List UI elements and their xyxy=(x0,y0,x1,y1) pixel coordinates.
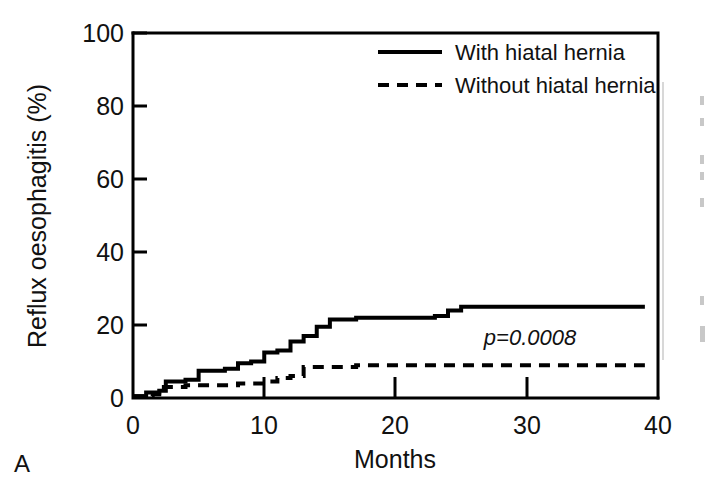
x-tick-label-0: 0 xyxy=(126,411,140,439)
reflux-oesophagitis-step-chart: 100 80 60 40 20 0 0 10 20 30 40 Months R… xyxy=(0,0,708,503)
figure-panel-a: 100 80 60 40 20 0 0 10 20 30 40 Months R… xyxy=(0,0,708,503)
y-tick-label-100: 100 xyxy=(82,19,124,47)
x-tick-label-40: 40 xyxy=(644,411,672,439)
y-axis-ticks xyxy=(133,33,147,325)
x-tick-label-30: 30 xyxy=(513,411,541,439)
x-tick-labels: 0 10 20 30 40 xyxy=(126,411,672,439)
legend-label-without-hiatal-hernia: Without hiatal hernia xyxy=(455,73,656,98)
panel-label: A xyxy=(14,450,30,477)
y-tick-label-80: 80 xyxy=(96,92,124,120)
chart-legend: With hiatal hernia Without hiatal hernia xyxy=(378,40,656,98)
curve-with-hiatal-hernia xyxy=(133,307,645,396)
x-tick-label-20: 20 xyxy=(381,411,409,439)
legend-label-with-hiatal-hernia: With hiatal hernia xyxy=(455,40,626,65)
y-tick-label-40: 40 xyxy=(96,238,124,266)
scan-edge-artifacts xyxy=(662,82,705,360)
x-axis-ticks xyxy=(264,377,527,398)
y-tick-label-60: 60 xyxy=(96,165,124,193)
y-tick-label-0: 0 xyxy=(110,384,124,412)
y-axis-title: Reflux oesophagitis (%) xyxy=(23,84,51,348)
p-value-annotation: p=0.0008 xyxy=(483,325,577,350)
x-tick-label-10: 10 xyxy=(250,411,278,439)
x-axis-title: Months xyxy=(354,445,436,473)
y-tick-label-20: 20 xyxy=(96,311,124,339)
y-tick-labels: 100 80 60 40 20 0 xyxy=(82,19,124,412)
